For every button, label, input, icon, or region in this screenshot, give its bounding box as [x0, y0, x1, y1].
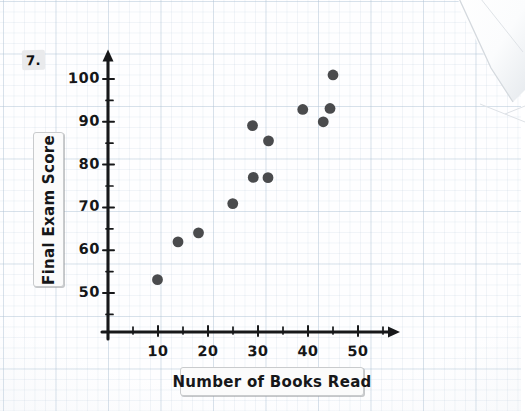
x-axis-tick-label: 40 — [286, 343, 330, 360]
data-points-layer — [152, 70, 338, 285]
x-axis-arrow-icon — [388, 327, 400, 338]
data-point — [328, 70, 339, 81]
data-point — [247, 120, 258, 131]
y-axis-tick-label: 60 — [58, 241, 100, 258]
question-number: 7. — [22, 50, 45, 70]
data-point — [318, 116, 329, 127]
y-axis-tick-label: 70 — [58, 198, 100, 215]
x-axis-title: Number of Books Read — [180, 367, 364, 396]
y-axis-tick-label: 100 — [58, 69, 100, 86]
x-axis-tick-label: 30 — [236, 343, 280, 360]
data-point — [325, 103, 336, 114]
data-point — [263, 135, 274, 146]
x-axis-tick-label: 50 — [336, 343, 380, 360]
y-axis-title-label: Final Exam Score — [40, 135, 58, 285]
axes-layer — [102, 50, 400, 339]
x-axis-title-label: Number of Books Read — [172, 373, 371, 391]
data-point — [193, 227, 204, 238]
y-axis-tick-label: 90 — [58, 112, 100, 129]
y-axis-tick-label: 80 — [58, 155, 100, 172]
y-axis-arrow-icon — [103, 50, 114, 62]
y-axis-tick-label: 50 — [58, 283, 100, 300]
x-axis-tick-label: 10 — [136, 343, 180, 360]
data-point — [263, 172, 274, 183]
data-point — [227, 198, 238, 209]
data-point — [173, 236, 184, 247]
x-axis-tick-label: 20 — [186, 343, 230, 360]
data-point — [152, 274, 163, 285]
ticks-layer — [103, 79, 383, 336]
data-point — [248, 172, 259, 183]
data-point — [297, 104, 308, 115]
